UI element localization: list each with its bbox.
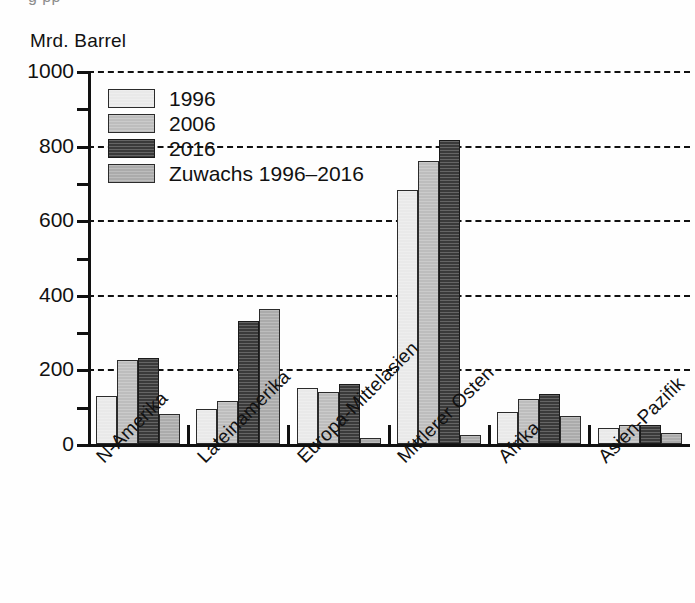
legend-label: 2006: [169, 112, 216, 136]
y-tick-0: [77, 444, 90, 447]
chart-page: g pp Mrd. Barrel 02004006008001000 N-Ame…: [0, 0, 695, 603]
y-tick-label-800: 800: [39, 134, 74, 158]
chart-legend: 199620062016Zuwachs 1996–2016: [108, 86, 364, 186]
bar: [460, 435, 481, 444]
y-tick-label-1000: 1000: [27, 59, 74, 83]
bar: [539, 394, 560, 444]
group-separator-tick: [588, 425, 591, 444]
bar: [159, 414, 180, 444]
group-separator-tick: [187, 425, 190, 444]
legend-item: Zuwachs 1996–2016: [108, 161, 364, 186]
cut-off-header-text: g pp: [0, 0, 695, 14]
bar: [397, 190, 418, 444]
legend-label: 1996: [169, 87, 216, 111]
group-separator-tick: [287, 425, 290, 444]
bar: [661, 433, 682, 444]
legend-swatch: [108, 114, 155, 133]
legend-label: Zuwachs 1996–2016: [169, 162, 364, 186]
bar-group: [489, 71, 589, 444]
legend-swatch: [108, 89, 155, 108]
y-axis-unit-label: Mrd. Barrel: [30, 30, 126, 52]
bar: [360, 438, 381, 444]
y-tick-label-200: 200: [39, 357, 74, 381]
legend-swatch: [108, 164, 155, 183]
y-tick-label-400: 400: [39, 283, 74, 307]
bar: [560, 416, 581, 444]
legend-item: 2006: [108, 111, 364, 136]
y-tick-label-0: 0: [62, 432, 74, 456]
legend-item: 1996: [108, 86, 364, 111]
bar: [418, 161, 439, 444]
legend-label: 2016: [169, 137, 216, 161]
y-tick-label-600: 600: [39, 208, 74, 232]
group-separator-tick: [388, 425, 391, 444]
group-separator-tick: [488, 425, 491, 444]
legend-swatch: [108, 139, 155, 158]
legend-item: 2016: [108, 136, 364, 161]
